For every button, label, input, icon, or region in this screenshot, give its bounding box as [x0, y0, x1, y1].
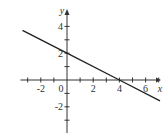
tick-labels: -2024642-2xy — [37, 5, 163, 112]
ticks — [28, 26, 159, 120]
y-tick-label: 4 — [58, 21, 63, 32]
y-axis-label: y — [59, 5, 65, 16]
axes — [20, 9, 161, 133]
x-tick-label: 4 — [117, 83, 122, 94]
coordinate-plane: -2024642-2xy — [0, 0, 166, 138]
x-tick-label: -2 — [37, 83, 45, 94]
x-tick-label: 2 — [91, 83, 96, 94]
x-axis-label: x — [157, 83, 163, 94]
x-tick-label: 0 — [59, 83, 64, 94]
y-tick-label: -2 — [55, 101, 63, 112]
y-axis-arrow-icon — [65, 9, 70, 15]
